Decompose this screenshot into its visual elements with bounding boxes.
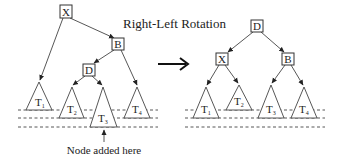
after-node-b: B [282,53,294,65]
edge-d-t3 [92,76,102,85]
edge-x-b [70,18,114,38]
edge-d-t2 [73,76,85,85]
before-node-d: D [83,64,95,76]
after-subtree-t1: T1 [193,87,219,118]
after-node-d: D [251,20,263,32]
right-left-rotation-diagram: Right-Left Rotation T1 T2 T3 [0,0,340,158]
after-tree: T1 T2 T3 T4 D X B [185,20,325,127]
edge-b-d [94,50,114,63]
edge-x-t1-after [207,65,219,85]
after-node-x: X [216,53,228,65]
before-subtree-t4: T4 [124,87,150,118]
edge-d-x [228,32,253,52]
svg-text:X: X [62,6,70,18]
node-added-label: Node added here [67,144,142,156]
after-subtree-t2: T2 [226,85,252,110]
edge-b-t3-after [272,65,285,83]
after-subtree-t3: T3 [258,85,284,118]
edge-x-t1 [40,18,63,80]
svg-text:B: B [284,53,291,65]
before-node-x: X [60,5,72,18]
edge-d-b [261,32,284,52]
svg-text:B: B [114,38,121,50]
svg-text:X: X [218,53,226,65]
diagram-title: Right-Left Rotation [123,16,226,31]
edge-x-t2-after [225,65,238,83]
before-subtree-t2: T2 [59,87,84,118]
after-subtree-t4: T4 [291,87,317,118]
before-subtree-t1: T1 [26,82,52,110]
rotation-arrow-icon [158,58,188,70]
svg-text:D: D [253,20,261,32]
edge-b-t4-after [291,65,303,85]
svg-text:D: D [85,64,93,76]
before-node-b: B [112,38,124,50]
edge-b-t4 [121,50,137,85]
before-subtree-t3: T3 [90,87,117,127]
